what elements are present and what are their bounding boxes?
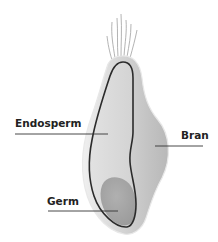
bran-label: Bran	[181, 130, 209, 141]
brush-hairs-icon	[107, 14, 137, 60]
germ-label: Germ	[47, 196, 79, 207]
endosperm-label: Endosperm	[15, 118, 81, 129]
